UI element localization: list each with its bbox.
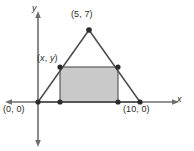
point-rect-top-left bbox=[57, 64, 62, 69]
label-origin-coordinates: (0, 0) bbox=[3, 104, 25, 114]
point-rect-bottom-left bbox=[57, 99, 62, 104]
figure-canvas bbox=[0, 0, 194, 151]
point-rect-bottom-right bbox=[115, 99, 120, 104]
x-axis-label: x bbox=[177, 94, 182, 104]
inscribed-rectangle-group bbox=[60, 67, 118, 102]
label-base-right-coordinates: (10, 0) bbox=[123, 104, 150, 114]
shaded-rectangle bbox=[60, 67, 118, 102]
label-rect-corner-coordinates: (x, y) bbox=[37, 53, 58, 63]
point-rect-top-right bbox=[115, 64, 120, 69]
coordinate-plane-figure: (5, 7) (x, y) (0, 0) (10, 0) x y bbox=[0, 0, 194, 151]
point-apex bbox=[86, 27, 92, 33]
y-axis-label: y bbox=[32, 3, 37, 13]
point-origin bbox=[35, 99, 40, 104]
label-apex-coordinates: (5, 7) bbox=[71, 9, 93, 19]
y-axis-arrow-down bbox=[35, 140, 41, 147]
